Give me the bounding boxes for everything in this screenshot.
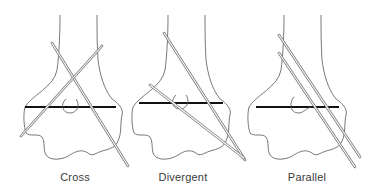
cross-panel — [21, 15, 128, 166]
cross-olecranon-fossa — [63, 99, 78, 113]
divergent-wire-1 — [164, 33, 245, 160]
cross-label: Cross — [60, 171, 90, 183]
divergent-wire-2 — [150, 85, 244, 158]
cross-wire-1 — [52, 43, 128, 166]
parallel-wire-1 — [279, 35, 360, 157]
parallel-olecranon-fossa — [291, 97, 311, 113]
parallel-label: Parallel — [288, 171, 326, 183]
pin-configuration-diagram — [0, 0, 381, 191]
divergent-label: Divergent — [159, 171, 208, 183]
parallel-panel — [248, 15, 360, 167]
cross-bone-outline — [24, 15, 122, 159]
parallel-wire-2 — [279, 53, 355, 167]
parallel-bone-outline — [248, 15, 346, 159]
divergent-panel — [132, 15, 245, 160]
